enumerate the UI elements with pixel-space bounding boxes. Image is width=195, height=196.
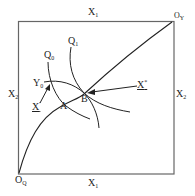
label-origin-oq: OQ <box>15 175 27 186</box>
label-point-a: A <box>60 101 67 111</box>
box-frame <box>19 22 175 175</box>
label-left-x2: X2 <box>8 89 18 100</box>
label-q1: Q1 <box>68 36 78 47</box>
arrow-x-star <box>92 86 137 92</box>
label-origin-oy: OY <box>174 12 184 21</box>
isoquant-q1 <box>70 47 99 128</box>
label-top-x1: X1 <box>88 7 98 18</box>
edgeworth-box-diagram: X1 X1 X2 X2 OQ OY Q0 Q1 Y0 A B X' X* <box>0 0 195 196</box>
diagram-graphics <box>0 0 195 196</box>
label-x-prime: X' <box>32 101 40 112</box>
label-x-star: X* <box>137 79 147 90</box>
contract-curve <box>19 22 172 173</box>
label-bottom-x1: X1 <box>88 178 98 189</box>
arrow-x-prime-head <box>45 84 50 91</box>
label-point-b: B <box>81 94 88 104</box>
label-right-x2: X2 <box>176 89 186 100</box>
label-q0: Q0 <box>44 50 54 61</box>
label-y0: Y0 <box>33 78 43 89</box>
